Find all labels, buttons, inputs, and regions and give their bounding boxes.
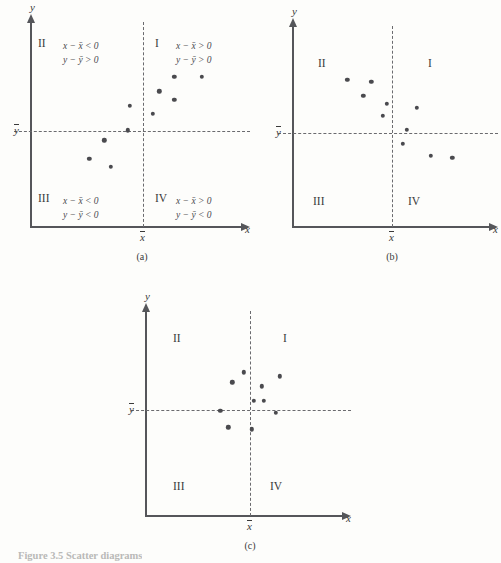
data-point xyxy=(273,411,277,415)
x-axis-line-a xyxy=(30,226,242,228)
mean-x-tick-label-a: x xyxy=(140,232,145,243)
data-point xyxy=(361,94,365,98)
y-axis-label-a: y xyxy=(30,2,35,13)
figure-caption: Figure 3.5 Scatter diagrams xyxy=(18,551,142,563)
data-point xyxy=(230,380,234,384)
data-point xyxy=(172,97,176,101)
data-points-layer-b xyxy=(292,26,490,226)
mean-y-tick-label-b: y xyxy=(276,127,281,138)
data-point xyxy=(385,102,389,106)
scatter-panel-b: y x y x II I III IV (b) xyxy=(250,0,501,268)
x-axis-label-b: x xyxy=(493,224,498,235)
data-point xyxy=(405,128,409,132)
data-point xyxy=(450,156,454,160)
data-point xyxy=(200,75,204,79)
data-point xyxy=(242,370,246,374)
panel-caption-c: (c) xyxy=(230,541,270,551)
data-point xyxy=(250,427,254,431)
data-point xyxy=(157,89,161,93)
data-point xyxy=(369,80,373,84)
mean-x-tick-label-b: x xyxy=(389,232,394,243)
x-axis-label-c: x xyxy=(346,513,351,524)
data-point xyxy=(401,142,405,146)
data-point xyxy=(151,112,155,116)
data-point xyxy=(345,78,349,82)
data-point xyxy=(108,165,112,169)
figure-container: y x y x II I III IV x − x̄ < 0 y − ȳ > … xyxy=(0,0,501,563)
data-points-layer-a xyxy=(30,22,242,226)
data-point xyxy=(218,409,222,413)
panel-caption-b: (b) xyxy=(372,252,412,262)
y-axis-label-c: y xyxy=(145,291,150,302)
data-point xyxy=(262,399,266,403)
data-point xyxy=(260,384,264,388)
data-point xyxy=(127,103,131,107)
data-point xyxy=(381,114,385,118)
data-point xyxy=(226,425,230,429)
x-axis-line-c xyxy=(145,515,343,517)
mean-y-tick-label-a: y xyxy=(14,125,19,136)
data-point xyxy=(102,138,106,142)
x-axis-line-b xyxy=(292,226,490,228)
data-point xyxy=(428,154,432,158)
data-point xyxy=(172,75,176,79)
data-point xyxy=(125,128,129,132)
scatter-panel-c: y x y x II I III IV (c) xyxy=(125,283,385,563)
data-point xyxy=(415,106,419,110)
panel-caption-a: (a) xyxy=(122,252,162,262)
scatter-panel-a: y x y x II I III IV x − x̄ < 0 y − ȳ > … xyxy=(0,0,250,268)
mean-x-tick-label-c: x xyxy=(247,521,252,532)
data-point xyxy=(87,156,91,160)
data-point xyxy=(252,399,256,403)
data-points-layer-c xyxy=(145,311,343,515)
mean-y-tick-label-c: y xyxy=(129,404,134,415)
y-axis-label-b: y xyxy=(292,6,297,17)
data-point xyxy=(277,374,281,378)
